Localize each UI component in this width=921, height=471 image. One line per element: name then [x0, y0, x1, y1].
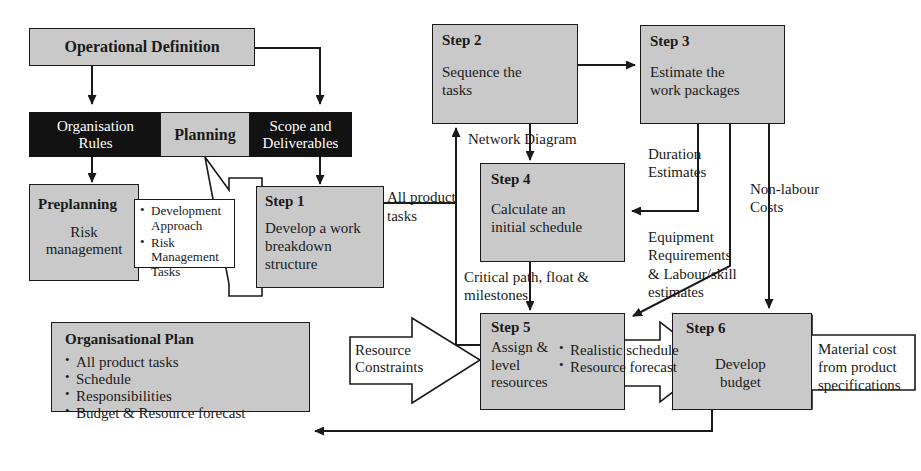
resource-constraints-line1: Resource [355, 342, 411, 359]
node-organisation-rules[interactable]: Organisation Rules [29, 112, 162, 157]
node-step2[interactable]: Step 2 Sequence the tasks [432, 24, 578, 124]
material-cost-line2: from product [818, 358, 900, 376]
all-product-tasks-line1: All product [387, 188, 456, 207]
organisational-plan-item-text: Budget & Resource forecast [76, 405, 246, 421]
node-planning[interactable]: Planning [160, 112, 250, 157]
label-network-diagram: Network Diagram [468, 131, 577, 148]
duration-estimates-line2: Estimates [648, 163, 706, 181]
equipment-line3: & Labour/skill [648, 265, 737, 283]
preplanning-callout-item: Development Approach [140, 204, 232, 234]
preplanning-callout-item-text: Development Approach [151, 203, 221, 233]
node-step4[interactable]: Step 4 Calculate an initial schedule [480, 163, 625, 262]
scope-line1: Scope and [269, 118, 331, 135]
step4-body-line1: Calculate an [491, 200, 624, 218]
label-resource-constraints: Resource Constraints [355, 342, 415, 375]
label-all-product-tasks: All product tasks [387, 188, 456, 226]
step5-callout-item-text: Realistic schedule [570, 342, 679, 358]
material-cost-line1: Material cost [818, 340, 900, 358]
step6-body-line2: budget [715, 373, 766, 391]
step6-body: Develop budget [715, 355, 766, 391]
step1-body-line2: breakdown [265, 237, 383, 255]
preplanning-callout-item-text: Risk Management Tasks [151, 235, 219, 280]
all-product-tasks-line2: tasks [387, 207, 456, 226]
organisational-plan-item-text: Schedule [76, 371, 131, 387]
organisational-plan-item: Responsibilities [65, 388, 309, 405]
scope-line2: Deliverables [263, 135, 339, 152]
organisation-rules-line2: Rules [78, 135, 112, 152]
equipment-line4: estimates [648, 283, 737, 301]
node-step1[interactable]: Step 1 Develop a work breakdown structur… [256, 186, 384, 288]
planning-label: Planning [174, 126, 235, 144]
label-material-cost: Material cost from product specification… [818, 340, 900, 394]
organisation-rules-line1: Organisation [57, 118, 134, 135]
step1-body-line1: Develop a work [265, 219, 383, 237]
label-equipment-requirements: Equipment Requirements & Labour/skill es… [648, 228, 737, 301]
organisational-plan-item-text: All product tasks [76, 354, 179, 370]
node-preplanning[interactable]: Preplanning Risk management [29, 184, 139, 281]
label-non-labour-costs: Non-labour Costs [750, 180, 819, 217]
preplanning-callout-item: Risk Management Tasks [140, 236, 232, 280]
preplanning-body-line1: Risk [30, 224, 138, 241]
step3-body-line1: Estimate the [650, 63, 784, 81]
node-preplanning-callout[interactable]: Development Approach Risk Management Tas… [134, 199, 235, 268]
non-labour-costs-line2: Costs [750, 198, 819, 216]
preplanning-title: Preplanning [38, 196, 117, 212]
node-step3[interactable]: Step 3 Estimate the work packages [640, 25, 785, 124]
step1-body-line3: structure [265, 255, 383, 273]
organisational-plan-item: All product tasks [65, 354, 309, 371]
operational-definition-title: Operational Definition [64, 38, 219, 56]
step3-body-line2: work packages [650, 81, 784, 99]
step5-callout-item-text: Resource forecast [570, 359, 677, 375]
step2-title: Step 2 [442, 32, 482, 48]
organisational-plan-item-text: Responsibilities [76, 388, 172, 404]
organisational-plan-item: Schedule [65, 371, 309, 388]
critical-path-line1: Critical path, float & [464, 268, 589, 286]
label-duration-estimates: Duration Estimates [648, 145, 706, 182]
edge-step6-to-orgplan [315, 410, 712, 431]
node-organisational-plan[interactable]: Organisational Plan All product tasks Sc… [51, 322, 310, 412]
node-scope-and-deliverables[interactable]: Scope and Deliverables [249, 112, 352, 157]
step4-body-line2: initial schedule [491, 218, 624, 236]
step6-title-text: Step 6 [686, 320, 726, 336]
critical-path-line2: milestones [464, 286, 589, 304]
network-diagram-text: Network Diagram [468, 131, 577, 147]
preplanning-body-line2: management [30, 241, 138, 258]
node-step5-callout[interactable]: Realistic schedule Resource forecast [559, 342, 659, 376]
step3-title: Step 3 [650, 33, 690, 49]
edge-opdef-to-scope [255, 48, 320, 104]
non-labour-costs-line1: Non-labour [750, 180, 819, 198]
step6-title: Step 6 [686, 320, 726, 337]
label-critical-path: Critical path, float & milestones [464, 268, 589, 305]
step2-body-line1: Sequence the [442, 63, 577, 81]
step5-callout-item: Resource forecast [559, 359, 659, 376]
duration-estimates-line1: Duration [648, 145, 706, 163]
equipment-line1: Equipment [648, 228, 737, 246]
step5-title: Step 5 [491, 319, 531, 335]
resource-constraints-line2: Constraints [355, 359, 423, 376]
equipment-line2: Requirements [648, 246, 737, 264]
organisational-plan-item: Budget & Resource forecast [65, 405, 309, 422]
node-operational-definition[interactable]: Operational Definition [29, 28, 255, 66]
organisational-plan-title: Organisational Plan [65, 331, 194, 347]
step5-callout-item: Realistic schedule [559, 342, 659, 359]
step2-body-line2: tasks [442, 81, 577, 99]
step1-title: Step 1 [265, 193, 305, 209]
diagram-canvas: Operational Definition Organisation Rule… [0, 0, 921, 471]
step4-title: Step 4 [491, 171, 531, 187]
step6-body-line1: Develop [715, 355, 766, 373]
material-cost-line3: specifications [818, 376, 900, 394]
step5-body-line3: resources [491, 374, 624, 392]
